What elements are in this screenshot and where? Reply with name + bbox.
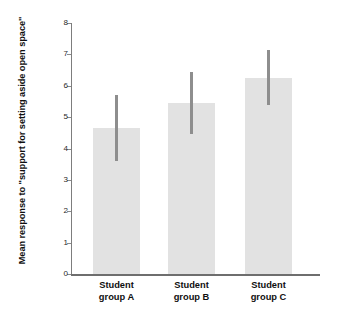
- error-bar-3: [267, 50, 271, 105]
- y-tick-label: 5: [64, 112, 68, 121]
- y-axis-title: Mean response to "support for setting as…: [0, 0, 46, 280]
- y-tick-label: 8: [64, 18, 68, 27]
- bar-3: [245, 78, 292, 274]
- error-bar-2: [190, 72, 194, 135]
- y-axis-title-text: Mean response to "support for setting as…: [17, 16, 30, 264]
- bar-chart-figure: Mean response to "support for setting as…: [0, 0, 340, 326]
- plot-area: 012345678 Student group AStudent group B…: [71, 23, 320, 274]
- y-tick-label: 1: [64, 238, 68, 247]
- y-tick-label: 2: [64, 206, 68, 215]
- x-axis-line: [71, 274, 320, 276]
- y-tick-label: 0: [64, 269, 68, 278]
- y-tick-label: 7: [64, 49, 68, 58]
- y-tick-label: 3: [64, 175, 68, 184]
- y-axis-line: [71, 23, 72, 275]
- x-axis-label-3: Student group C: [224, 279, 314, 303]
- y-tick-label: 4: [64, 144, 68, 153]
- y-tick-label: 6: [64, 81, 68, 90]
- error-bar-1: [115, 95, 119, 161]
